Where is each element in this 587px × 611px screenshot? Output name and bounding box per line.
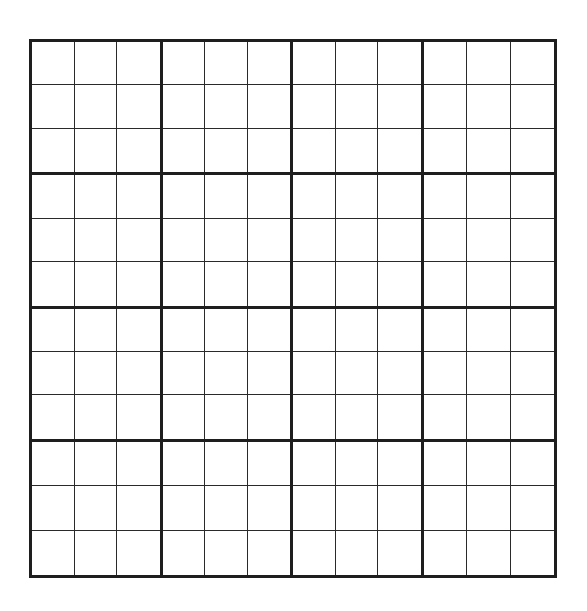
grid-cell-r3-c2[interactable] [75,129,118,172]
grid-cell-r8-c2[interactable] [75,352,118,395]
grid-cell-r7-c9[interactable] [378,309,421,352]
grid-cell-r5-c12[interactable] [511,219,555,262]
grid-cell-r7-c7[interactable] [293,309,336,352]
grid-cell-r2-c7[interactable] [293,85,336,128]
grid-cell-r1-c5[interactable] [205,42,248,85]
grid-cell-r8-c3[interactable] [117,352,160,395]
grid-cell-r1-c7[interactable] [293,42,336,85]
grid-cell-r5-c5[interactable] [205,219,248,262]
grid-cell-r4-c10[interactable] [424,175,468,218]
grid-cell-r12-c6[interactable] [248,531,291,575]
grid-cell-r3-c1[interactable] [32,129,75,172]
grid-cell-r5-c8[interactable] [336,219,379,262]
grid-cell-r10-c1[interactable] [32,442,75,486]
grid-cell-r9-c11[interactable] [467,395,511,438]
grid-cell-r11-c10[interactable] [424,486,468,530]
grid-cell-r9-c12[interactable] [511,395,555,438]
grid-cell-r10-c9[interactable] [378,442,421,486]
grid-cell-r12-c10[interactable] [424,531,468,575]
grid-cell-r12-c5[interactable] [205,531,248,575]
grid-cell-r10-c5[interactable] [205,442,248,486]
grid-cell-r3-c3[interactable] [117,129,160,172]
grid-cell-r1-c3[interactable] [117,42,160,85]
grid-cell-r11-c7[interactable] [293,486,336,530]
grid-cell-r1-c8[interactable] [336,42,379,85]
grid-cell-r8-c10[interactable] [424,352,468,395]
grid-cell-r2-c9[interactable] [378,85,421,128]
grid-cell-r8-c9[interactable] [378,352,421,395]
grid-cell-r10-c8[interactable] [336,442,379,486]
grid-cell-r7-c6[interactable] [248,309,291,352]
grid-cell-r7-c8[interactable] [336,309,379,352]
grid-cell-r5-c7[interactable] [293,219,336,262]
grid-cell-r6-c3[interactable] [117,262,160,305]
grid-cell-r3-c9[interactable] [378,129,421,172]
grid-cell-r2-c6[interactable] [248,85,291,128]
grid-cell-r2-c8[interactable] [336,85,379,128]
grid-cell-r10-c6[interactable] [248,442,291,486]
grid-cell-r3-c11[interactable] [467,129,511,172]
grid-cell-r11-c8[interactable] [336,486,379,530]
grid-cell-r8-c12[interactable] [511,352,555,395]
grid-cell-r4-c11[interactable] [467,175,511,218]
grid-cell-r5-c4[interactable] [163,219,206,262]
grid-cell-r4-c6[interactable] [248,175,291,218]
grid-cell-r9-c7[interactable] [293,395,336,438]
grid-cell-r2-c2[interactable] [75,85,118,128]
grid-cell-r8-c6[interactable] [248,352,291,395]
grid-cell-r2-c11[interactable] [467,85,511,128]
grid-cell-r3-c10[interactable] [424,129,468,172]
grid-cell-r11-c9[interactable] [378,486,421,530]
grid-cell-r9-c4[interactable] [163,395,206,438]
grid-cell-r1-c12[interactable] [511,42,555,85]
grid-cell-r7-c1[interactable] [32,309,75,352]
grid-cell-r5-c11[interactable] [467,219,511,262]
grid-cell-r12-c7[interactable] [293,531,336,575]
grid-cell-r2-c5[interactable] [205,85,248,128]
grid-cell-r6-c10[interactable] [424,262,468,305]
grid-cell-r11-c12[interactable] [511,486,555,530]
grid-cell-r3-c8[interactable] [336,129,379,172]
grid-cell-r11-c11[interactable] [467,486,511,530]
grid-cell-r4-c3[interactable] [117,175,160,218]
grid-cell-r3-c7[interactable] [293,129,336,172]
grid-cell-r8-c7[interactable] [293,352,336,395]
grid-cell-r11-c2[interactable] [75,486,118,530]
grid-cell-r1-c6[interactable] [248,42,291,85]
grid-cell-r10-c7[interactable] [293,442,336,486]
grid-cell-r6-c9[interactable] [378,262,421,305]
grid-cell-r3-c6[interactable] [248,129,291,172]
grid-cell-r7-c2[interactable] [75,309,118,352]
grid-cell-r5-c1[interactable] [32,219,75,262]
grid-cell-r8-c5[interactable] [205,352,248,395]
grid-cell-r1-c4[interactable] [163,42,206,85]
grid-cell-r6-c2[interactable] [75,262,118,305]
grid-cell-r6-c1[interactable] [32,262,75,305]
grid-cell-r12-c4[interactable] [163,531,206,575]
grid-cell-r11-c5[interactable] [205,486,248,530]
grid-cell-r6-c6[interactable] [248,262,291,305]
grid-cell-r6-c8[interactable] [336,262,379,305]
grid-cell-r8-c1[interactable] [32,352,75,395]
grid-cell-r9-c5[interactable] [205,395,248,438]
grid-cell-r1-c11[interactable] [467,42,511,85]
grid-cell-r2-c1[interactable] [32,85,75,128]
grid-cell-r9-c1[interactable] [32,395,75,438]
grid-cell-r1-c2[interactable] [75,42,118,85]
grid-cell-r4-c4[interactable] [163,175,206,218]
grid-cell-r10-c11[interactable] [467,442,511,486]
grid-cell-r10-c2[interactable] [75,442,118,486]
grid-cell-r6-c12[interactable] [511,262,555,305]
grid-cell-r1-c9[interactable] [378,42,421,85]
grid-cell-r12-c11[interactable] [467,531,511,575]
grid-cell-r12-c8[interactable] [336,531,379,575]
grid-cell-r9-c3[interactable] [117,395,160,438]
grid-cell-r6-c11[interactable] [467,262,511,305]
grid-cell-r11-c6[interactable] [248,486,291,530]
grid-cell-r7-c3[interactable] [117,309,160,352]
grid-cell-r6-c7[interactable] [293,262,336,305]
grid-cell-r6-c5[interactable] [205,262,248,305]
grid-cell-r12-c9[interactable] [378,531,421,575]
grid-cell-r4-c1[interactable] [32,175,75,218]
grid-cell-r7-c10[interactable] [424,309,468,352]
